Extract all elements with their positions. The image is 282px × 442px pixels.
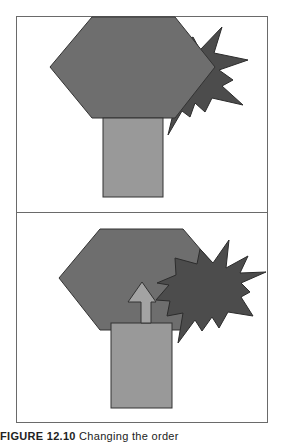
rectangle-shape[interactable] — [103, 118, 163, 197]
figure-caption-text: Changing the order — [79, 430, 179, 442]
rectangle-shape-2[interactable] — [111, 323, 172, 408]
bottom-panel — [59, 229, 266, 408]
figure-caption: FIGURE 12.10 Changing the order — [0, 430, 179, 442]
top-panel — [50, 17, 248, 197]
figure-caption-label: FIGURE 12.10 — [0, 430, 76, 442]
